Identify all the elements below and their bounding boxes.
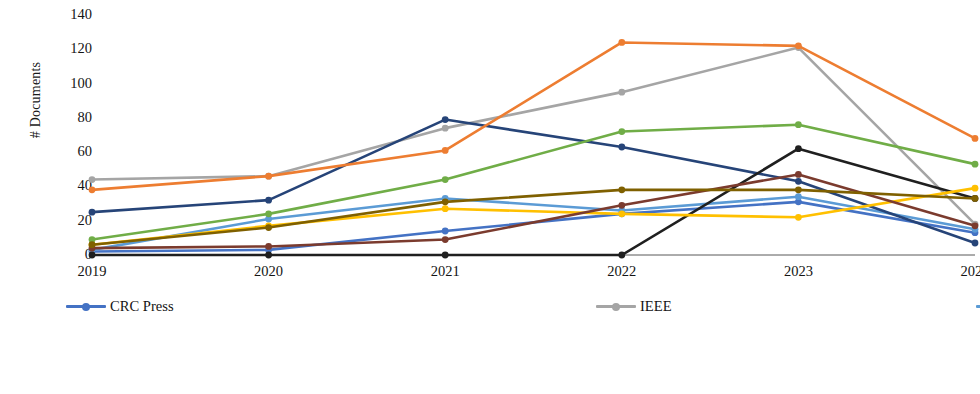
- data-point: [618, 144, 625, 151]
- series-line: [89, 185, 979, 248]
- data-point: [618, 39, 625, 46]
- data-point: [795, 171, 802, 178]
- legend-swatch-icon: [596, 301, 636, 312]
- data-point: [972, 240, 979, 247]
- data-point: [265, 173, 272, 180]
- data-point: [618, 202, 625, 209]
- series-line: [89, 145, 979, 258]
- data-point: [89, 209, 96, 216]
- data-point: [265, 210, 272, 217]
- data-point: [618, 89, 625, 96]
- legend-swatch-icon: [66, 301, 106, 312]
- series-line: [89, 186, 979, 248]
- legend-label: CRC Press: [109, 299, 174, 314]
- legend-label: IEEE: [639, 299, 672, 314]
- data-point: [972, 185, 979, 192]
- data-point: [265, 243, 272, 250]
- data-point: [795, 178, 802, 185]
- series-line: [89, 39, 979, 193]
- data-point: [265, 252, 272, 259]
- data-point: [442, 147, 449, 154]
- data-point: [265, 224, 272, 231]
- data-point: [795, 214, 802, 221]
- data-point: [265, 197, 272, 204]
- data-point: [618, 128, 625, 135]
- data-point: [442, 252, 449, 259]
- data-point: [442, 125, 449, 132]
- chart-legend: CRC PressIEEEInstitute of Electrical and…: [66, 297, 976, 316]
- data-point: [442, 228, 449, 235]
- data-point: [795, 193, 802, 200]
- legend-swatch-icon: [976, 301, 980, 312]
- data-point: [972, 195, 979, 202]
- data-point: [795, 121, 802, 128]
- legend-item[interactable]: Institute of Electrical and Electronics …: [976, 299, 980, 314]
- data-point: [442, 236, 449, 243]
- data-point: [89, 252, 96, 259]
- line-chart: # Documents 020406080100120140 201920202…: [0, 0, 980, 394]
- data-point: [972, 161, 979, 168]
- data-point: [618, 210, 625, 217]
- data-point: [442, 176, 449, 183]
- data-point: [795, 42, 802, 49]
- data-point: [972, 222, 979, 229]
- legend-item[interactable]: CRC Press: [66, 299, 596, 314]
- series-line: [89, 121, 979, 243]
- data-point: [89, 241, 96, 248]
- data-point: [442, 116, 449, 123]
- data-point: [89, 186, 96, 193]
- plot-area: [0, 0, 980, 290]
- data-point: [618, 252, 625, 259]
- data-point: [442, 198, 449, 205]
- data-point: [442, 205, 449, 212]
- data-point: [972, 135, 979, 142]
- data-point: [618, 186, 625, 193]
- data-point: [89, 176, 96, 183]
- data-point: [795, 186, 802, 193]
- data-point: [795, 145, 802, 152]
- legend-item[interactable]: IEEE: [596, 299, 976, 314]
